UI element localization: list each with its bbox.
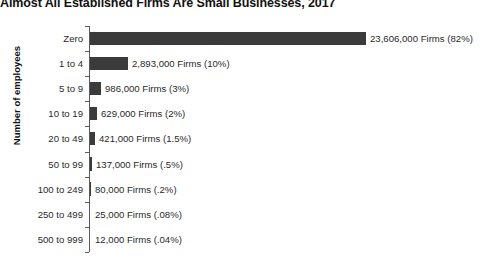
bar: [90, 82, 101, 96]
category-label: 100 to 249: [38, 177, 83, 202]
bar-data-label: 421,000 Firms (1.5%): [99, 126, 191, 151]
bar-data-label: 25,000 Firms (.08%): [95, 202, 182, 227]
axis-tick: [85, 76, 89, 77]
bar-data-label: 2,893,000 Firms (10%): [132, 51, 230, 76]
axis-tick: [85, 252, 89, 253]
category-label: 250 to 499: [38, 202, 83, 227]
bar: [90, 132, 95, 146]
axis-tick: [85, 202, 89, 203]
bar-data-label: 629,000 Firms (2%): [101, 101, 185, 126]
axis-tick: [85, 152, 89, 153]
bar-row: 5 to 9 986,000 Firms (3%): [89, 76, 497, 101]
bar-data-label: 80,000 Firms (.2%): [95, 177, 177, 202]
bar-data-label: 23,606,000 Firms (82%): [370, 26, 473, 51]
axis-tick: [85, 51, 89, 52]
y-axis-title: Number of employees: [11, 26, 22, 166]
axis-tick: [85, 101, 89, 102]
category-label: Zero: [63, 26, 83, 51]
bar-row: Zero 23,606,000 Firms (82%): [89, 26, 497, 51]
category-label: 10 to 19: [48, 101, 83, 126]
chart-title: Almost All Established Firms Are Small B…: [0, 0, 497, 10]
plot-area: Zero 23,606,000 Firms (82%) 1 to 4 2,893…: [89, 26, 497, 252]
bar-row: 100 to 249 80,000 Firms (.2%): [89, 177, 497, 202]
bar-row: 50 to 99 137,000 Firms (.5%): [89, 152, 497, 177]
bar-data-label: 12,000 Firms (.04%): [95, 227, 182, 252]
bar-row: 20 to 49 421,000 Firms (1.5%): [89, 126, 497, 151]
bar-data-label: 137,000 Firms (.5%): [96, 152, 183, 177]
axis-tick: [85, 177, 89, 178]
category-label: 1 to 4: [59, 51, 83, 76]
bar: [90, 157, 92, 171]
category-label: 20 to 49: [48, 126, 83, 151]
category-label: 500 to 999: [38, 227, 83, 252]
bar-row: 250 to 499 25,000 Firms (.08%): [89, 202, 497, 227]
category-label: 5 to 9: [59, 76, 83, 101]
category-label: 50 to 99: [48, 152, 83, 177]
bar-row: 500 to 999 12,000 Firms (.04%): [89, 227, 497, 252]
bar-row: 10 to 19 629,000 Firms (2%): [89, 101, 497, 126]
bar: [90, 182, 91, 196]
axis-tick: [85, 26, 89, 27]
bar: [90, 32, 366, 46]
bar: [90, 107, 97, 121]
bar-row: 1 to 4 2,893,000 Firms (10%): [89, 51, 497, 76]
axis-tick: [85, 227, 89, 228]
bar-data-label: 986,000 Firms (3%): [105, 76, 189, 101]
axis-tick: [85, 126, 89, 127]
bar: [90, 57, 128, 71]
